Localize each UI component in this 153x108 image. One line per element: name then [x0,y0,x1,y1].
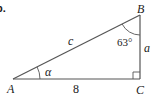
vertex-label-a: A [7,83,14,95]
angle-label-63: 63° [117,37,132,48]
angle-arc-63 [122,24,140,35]
angle-arc-alpha [37,67,40,79]
right-angle-marker [133,72,140,79]
right-triangle-figure: b. B A C c 8 a α 63° [0,0,153,108]
side-label-a: a [144,42,150,54]
angle-label-alpha: α [45,66,51,78]
side-label-base: 8 [73,83,79,95]
side-label-c: c [68,35,73,47]
vertex-label-c: C [136,84,144,96]
vertex-label-b: B [137,3,144,15]
